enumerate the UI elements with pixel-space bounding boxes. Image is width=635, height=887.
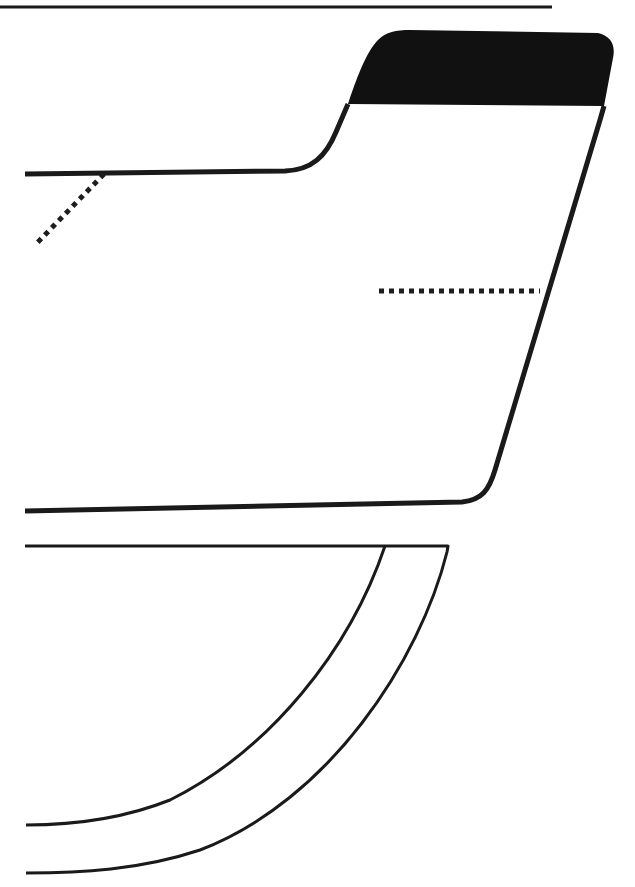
diagram-svg <box>0 0 635 887</box>
leader-line-left <box>37 174 104 243</box>
folder-outline <box>25 104 604 511</box>
tab-shaded-region <box>348 30 614 106</box>
quarter-ring-outline <box>25 546 448 873</box>
